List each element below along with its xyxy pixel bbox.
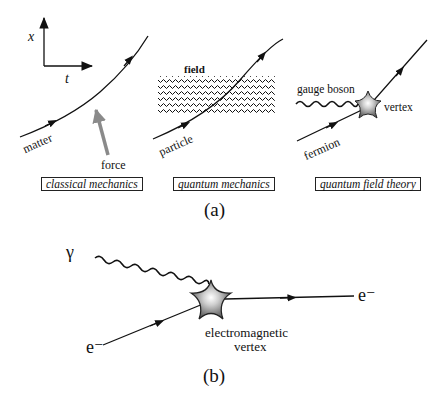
panel-b-caption: (b)	[203, 366, 225, 385]
gauge-boson-wave-icon	[296, 102, 358, 107]
vertex-star-icon	[355, 91, 381, 118]
x-axis-label: x	[28, 30, 34, 44]
gauge-boson-label: gauge boson	[297, 84, 355, 96]
classical-mechanics-title: classical mechanics	[41, 177, 143, 191]
outgoing-electron-line	[225, 296, 354, 299]
classical-trajectory	[20, 36, 148, 137]
panel-a-caption: (a)	[204, 200, 225, 219]
electromagnetic-vertex-star-icon	[191, 280, 231, 319]
field-label: field	[184, 64, 205, 75]
photon-wave-icon	[95, 256, 209, 284]
outgoing-electron-label: e⁻	[358, 286, 376, 304]
force-label: force	[101, 159, 126, 171]
incoming-electron-label: e⁻	[86, 338, 104, 356]
incoming-electron-line	[103, 304, 203, 345]
axes-icon	[44, 18, 92, 66]
quantum-field-theory-title: quantum field theory	[315, 177, 421, 191]
t-axis-label: t	[65, 72, 69, 86]
photon-label: γ	[66, 243, 74, 261]
em-vertex-label-line2: vertex	[234, 340, 266, 353]
em-vertex-label-line1: electromagnetic	[205, 326, 288, 339]
field-waves-icon	[158, 76, 275, 114]
quantum-mechanics-title: quantum mechanics	[173, 177, 275, 191]
vertex-label: vertex	[384, 102, 413, 114]
force-arrow-icon	[96, 110, 108, 155]
